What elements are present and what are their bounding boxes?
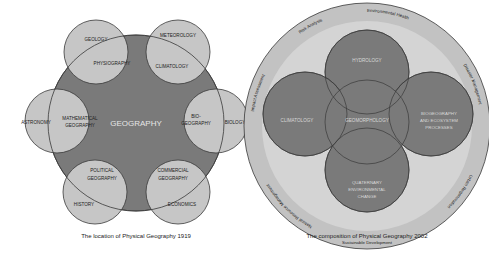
diagram-2002: HYDROLOGY CLIMATOLOGY GEOMORPHOLOGY BIOG… <box>244 3 489 249</box>
commercial-geography-label: GEOGRAPHY <box>158 176 188 181</box>
meteorology-circle <box>146 20 210 84</box>
climatology-2002-label: CLIMATOLOGY <box>281 118 314 123</box>
political-geography-label: GEOGRAPHY <box>87 176 117 181</box>
geography-label: GEOGRAPHY <box>110 119 162 128</box>
biogeography-label: GEOGRAPHY <box>181 121 211 126</box>
quaternary-line1: QUATERNARY <box>352 180 382 185</box>
economics-label: ECONOMICS <box>168 202 196 207</box>
diagram-canvas: GEOGRAPHY GEOLOGY PHYSIOGRAPHY METEOROLO… <box>0 0 489 253</box>
biogeography-line1: BIOGEOGRAPHY <box>421 111 457 116</box>
biology-label: BIOLOGY <box>225 120 246 125</box>
mathematical-label: MATHEMATICAL <box>62 116 98 121</box>
caption-2002: The composition of Physical Geography 20… <box>267 233 467 239</box>
biogeography-line3: PROCESSES <box>425 125 452 130</box>
mathematical-geography-label: GEOGRAPHY <box>65 123 95 128</box>
bio-label: BIO- <box>191 114 201 119</box>
quaternary-line3: CHANGE <box>358 194 377 199</box>
quaternary-line2: ENVIRONMENTAL <box>348 187 386 192</box>
geology-label: GEOLOGY <box>85 37 108 42</box>
physiography-label: PHYSIOGRAPHY <box>94 61 131 66</box>
political-label: POLITICAL <box>90 168 114 173</box>
hydrology-label: HYDROLOGY <box>352 58 381 63</box>
astronomy-label: ASTRONOMY <box>21 120 51 125</box>
meteorology-label: METEOROLOGY <box>160 33 196 38</box>
commercial-label: COMMERCIAL <box>157 168 189 173</box>
biogeography-line2: AND ECOSYSTEM <box>420 118 458 123</box>
ring-label-sustainable-development: Sustainable Development <box>342 240 393 245</box>
climatology-label: CLIMATOLOGY <box>156 64 189 69</box>
caption-1919: The location of Physical Geography 1919 <box>36 233 236 239</box>
geomorphology-label: GEOMORPHOLOGY <box>345 118 389 123</box>
diagram-1919: GEOGRAPHY GEOLOGY PHYSIOGRAPHY METEOROLO… <box>21 20 248 224</box>
geology-circle <box>64 20 128 84</box>
history-label: HISTORY <box>74 202 94 207</box>
